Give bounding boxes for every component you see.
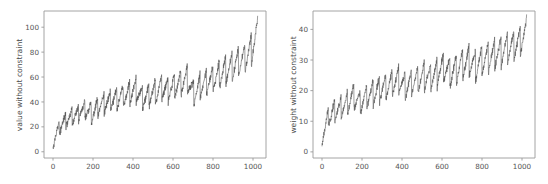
y-tick-label: 40 <box>299 25 309 34</box>
chart-right-svg: weight without constraint 010203040 0200… <box>274 0 548 184</box>
x-tick-label: 800 <box>475 162 489 171</box>
right-x-tick-labels: 02004006008001000 <box>320 158 532 171</box>
figure-container: value without constraint 020406080100 02… <box>0 0 548 184</box>
y-tick-label: 20 <box>299 86 309 95</box>
x-tick-label: 800 <box>206 162 220 171</box>
chart-left-svg: value without constraint 020406080100 02… <box>0 0 274 184</box>
x-tick-label: 0 <box>51 162 56 171</box>
y-tick-label: 40 <box>30 98 40 107</box>
right-axes-group: weight without constraint 010203040 0200… <box>289 11 535 171</box>
y-tick-label: 30 <box>299 56 309 65</box>
left-x-tick-labels: 02004006008001000 <box>51 158 263 171</box>
chart-panel-left: value without constraint 020406080100 02… <box>0 0 274 184</box>
y-tick-label: 80 <box>30 48 40 57</box>
right-y-tick-labels: 010203040 <box>299 25 313 157</box>
x-tick-label: 1000 <box>244 162 263 171</box>
x-tick-label: 0 <box>320 162 325 171</box>
y-tick-label: 0 <box>34 147 39 156</box>
y-tick-label: 20 <box>30 122 40 131</box>
x-tick-label: 600 <box>166 162 180 171</box>
left-data-line <box>53 16 258 149</box>
y-tick-label: 0 <box>303 147 308 156</box>
y-tick-label: 60 <box>30 73 40 82</box>
x-tick-label: 400 <box>126 162 140 171</box>
left-y-tick-labels: 020406080100 <box>25 23 44 157</box>
x-tick-label: 600 <box>435 162 449 171</box>
right-plot-frame <box>313 11 535 158</box>
x-tick-label: 200 <box>86 162 100 171</box>
chart-panel-right: weight without constraint 010203040 0200… <box>274 0 548 184</box>
x-tick-label: 200 <box>355 162 369 171</box>
right-data-line <box>322 14 527 146</box>
left-axes-group: value without constraint 020406080100 02… <box>15 11 266 171</box>
x-tick-label: 400 <box>395 162 409 171</box>
right-y-axis-label: weight without constraint <box>289 36 298 133</box>
x-tick-label: 1000 <box>513 162 532 171</box>
y-tick-label: 10 <box>299 117 309 126</box>
y-tick-label: 100 <box>25 23 39 32</box>
left-y-axis-label: value without constraint <box>15 39 24 131</box>
